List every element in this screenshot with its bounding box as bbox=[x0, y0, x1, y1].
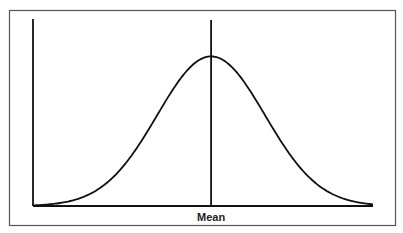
mean-label: Mean bbox=[197, 211, 225, 223]
normal-distribution-chart: Mean bbox=[0, 0, 403, 233]
normal-curve bbox=[33, 56, 373, 205]
chart-frame bbox=[10, 11, 396, 226]
